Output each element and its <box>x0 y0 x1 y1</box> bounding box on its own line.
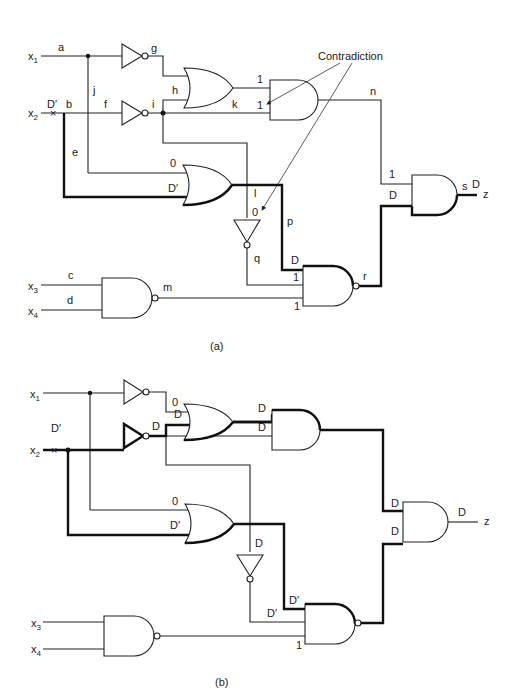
output-z-label: z <box>484 515 490 527</box>
contradiction-label: Contradiction <box>318 50 383 62</box>
nand-gate-r <box>305 604 355 644</box>
signal-h: h <box>172 84 178 96</box>
input-x1-label: x1 <box>28 50 39 65</box>
fault-marker-a: × <box>50 107 56 119</box>
not-gate-i <box>122 101 142 125</box>
value-output-a: D <box>472 178 480 190</box>
or-gate-2 <box>185 504 234 543</box>
signal-l: l <box>254 187 256 199</box>
not-gate-i <box>124 424 143 448</box>
signal-q: q <box>254 252 260 264</box>
signal-n: n <box>370 85 376 97</box>
signal-j: j <box>92 84 95 96</box>
signal-k: k <box>232 98 238 110</box>
signal-f: f <box>104 98 108 110</box>
value-m: 1 <box>294 300 300 312</box>
panel-b: x1 x2 D′ × 0 D D D D <box>30 380 490 688</box>
signal-a: a <box>58 41 65 53</box>
nand-gate-inputs <box>104 616 154 656</box>
fault-value-b: D′ <box>51 422 61 434</box>
value-and1-bot: 1 <box>257 99 263 111</box>
signal-e: e <box>72 146 78 158</box>
value-p: D′ <box>289 594 299 606</box>
input-x3-label: x3 <box>31 617 42 632</box>
panel-a: x1 x2 a j D′ × b f e g i h k <box>28 41 489 352</box>
signal-s: s <box>462 180 468 192</box>
value-final-bot: D <box>391 525 399 537</box>
value-not-l: D <box>255 537 263 549</box>
signal-b: b <box>66 98 72 110</box>
nand-gate-inputs <box>102 278 152 318</box>
value-output-b: D <box>458 506 466 518</box>
circuit-diagram: x1 x2 a j D′ × b f e g i h k <box>0 0 511 700</box>
input-x4-label: x4 <box>28 305 39 320</box>
input-x2-label: x2 <box>30 444 41 459</box>
value-not-g: 0 <box>172 396 178 408</box>
signal-i: i <box>152 98 154 110</box>
value-or1-bot: D <box>174 408 182 420</box>
value-m: 1 <box>296 639 302 651</box>
signal-g: g <box>151 42 157 54</box>
value-q: 1 <box>293 271 299 283</box>
value-final-top: 1 <box>389 168 395 180</box>
signal-c: c <box>68 269 74 281</box>
caption-b: (b) <box>215 676 228 688</box>
output-z-label: z <box>483 188 489 200</box>
value-final-bot: D <box>389 189 397 201</box>
value-or1-out: D <box>258 402 266 414</box>
input-x1-label: x1 <box>30 388 41 403</box>
value-q: D′ <box>267 607 277 619</box>
signal-m: m <box>163 281 172 293</box>
value-or2-bot: D′ <box>170 519 180 531</box>
signal-d: d <box>67 294 73 306</box>
and-gate-1 <box>270 80 318 120</box>
and-gate-final <box>403 502 448 542</box>
value-final-top: D <box>391 497 399 509</box>
input-x2-label: x2 <box>28 107 39 122</box>
value-not-i: D <box>152 420 160 432</box>
fault-marker-b: × <box>51 444 57 456</box>
or-gate-1 <box>184 404 233 440</box>
signal-r: r <box>363 270 367 282</box>
or-gate-2 <box>183 165 232 205</box>
input-x4-label: x4 <box>31 643 42 658</box>
or-gate-1 <box>184 68 233 108</box>
not-gate-q <box>237 555 263 576</box>
value-and1-top: 1 <box>257 73 263 85</box>
value-or2-top: 0 <box>172 495 178 507</box>
caption-a: (a) <box>210 340 223 352</box>
not-gate-g <box>124 380 143 404</box>
nand-gate-r <box>303 266 353 306</box>
value-or2-top: 0 <box>170 157 176 169</box>
not-gate-g <box>122 44 142 68</box>
value-not-l: 0 <box>252 206 258 218</box>
signal-p: p <box>287 215 293 227</box>
value-or2-bot: D′ <box>168 182 178 194</box>
input-x3-label: x3 <box>28 280 39 295</box>
not-gate-q <box>234 220 260 242</box>
value-p: D <box>291 254 299 266</box>
